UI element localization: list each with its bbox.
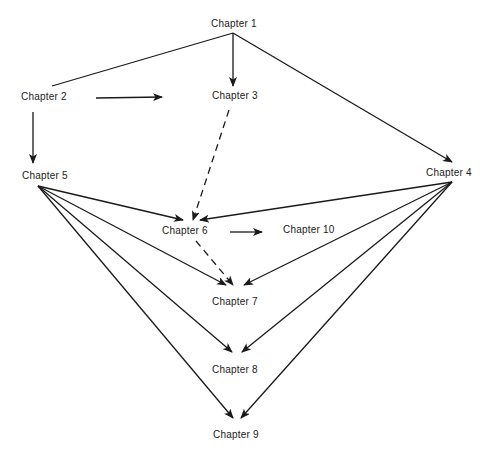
edge-ch1-to-ch2	[52, 33, 233, 86]
edge-ch5-to-ch9	[38, 186, 233, 418]
edge-ch4-to-ch8	[242, 182, 452, 352]
node-chapter-5: Chapter 5	[22, 170, 68, 181]
edge-ch3-to-ch6	[193, 110, 229, 220]
node-chapter-3: Chapter 3	[212, 90, 258, 101]
edge-ch4-to-ch9	[241, 182, 452, 418]
node-chapter-1: Chapter 1	[211, 18, 257, 29]
node-chapter-8: Chapter 8	[212, 364, 258, 375]
chapter-dependency-diagram: Chapter 1 Chapter 2 Chapter 3 Chapter 4 …	[0, 0, 491, 457]
node-chapter-9: Chapter 9	[213, 429, 259, 440]
node-chapter-4: Chapter 4	[426, 167, 472, 178]
edge-ch2-to-ch3	[96, 97, 162, 98]
edge-ch1-to-ch4	[233, 33, 452, 162]
node-chapter-7: Chapter 7	[212, 296, 258, 307]
node-chapter-2: Chapter 2	[21, 91, 67, 102]
edge-ch5-to-ch6	[38, 186, 183, 220]
edge-ch5-to-ch8	[38, 186, 232, 352]
edges-layer	[0, 0, 491, 457]
node-chapter-6: Chapter 6	[162, 225, 208, 236]
node-chapter-10: Chapter 10	[283, 224, 334, 235]
